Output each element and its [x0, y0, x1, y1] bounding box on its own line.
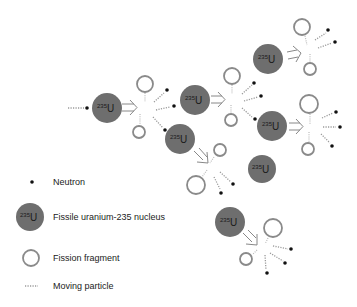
fission-fragment-icon	[23, 250, 39, 266]
legend-nucleus: 235U Fissile uranium-235 nucleus	[16, 203, 166, 231]
fission-arrow-7	[243, 230, 257, 245]
uranium-nucleus-6: 235U	[248, 155, 276, 183]
fission-arrow-3	[194, 148, 208, 163]
legend-moving: Moving particle	[25, 281, 114, 291]
fission-products-4	[294, 19, 337, 75]
fission-arrow-2	[211, 92, 225, 107]
incoming-neutron	[68, 106, 89, 110]
fission-products-7	[240, 219, 293, 275]
uranium-nucleus-2: 235U	[180, 85, 210, 115]
uranium-nucleus-7: 235U	[215, 207, 245, 237]
fission-arrow-5	[289, 119, 303, 134]
uranium-nucleus-5: 235U	[257, 111, 287, 141]
uranium-nucleus-3: 235U	[165, 124, 195, 154]
legend-moving-label: Moving particle	[53, 281, 114, 291]
fission-products-2	[224, 68, 263, 126]
fission-arrow-1	[122, 100, 137, 115]
legend-neutron-label: Neutron	[53, 177, 85, 187]
neutron-icon	[30, 180, 34, 184]
uranium-nucleus-1: 235U	[92, 93, 122, 123]
legend-fragment-label: Fission fragment	[53, 253, 120, 263]
legend: Neutron 235U Fissile uranium-235 nucleus…	[16, 177, 166, 291]
legend-fragment: Fission fragment	[23, 250, 120, 266]
fission-products-5	[300, 95, 342, 155]
legend-neutron: Neutron	[30, 177, 85, 187]
uranium-nucleus-icon: 235U	[16, 203, 44, 231]
fission-arrow-4	[287, 46, 301, 62]
uranium-nucleus-4: 235U	[253, 44, 283, 74]
fission-chain-diagram: 235U 235U 235U	[0, 0, 357, 307]
legend-nucleus-label: Fissile uranium-235 nucleus	[53, 212, 166, 222]
